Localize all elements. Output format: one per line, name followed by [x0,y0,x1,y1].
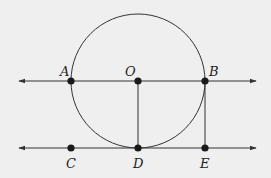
label-E: E [199,156,210,171]
geometry-diagram: AOBCDE [0,0,271,178]
label-O: O [125,64,136,79]
label-C: C [66,156,76,171]
point-C [67,144,74,151]
point-B [201,77,208,84]
label-A: A [59,64,69,79]
label-D: D [132,156,144,171]
point-D [134,144,141,151]
label-B: B [208,64,219,79]
point-E [201,144,208,151]
